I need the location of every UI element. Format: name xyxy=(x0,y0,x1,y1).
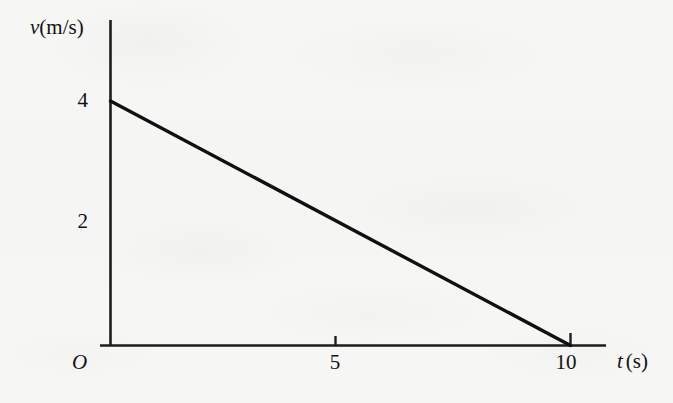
x-axis-variable: t xyxy=(617,349,623,373)
x-tick-label-5: 5 xyxy=(323,352,347,373)
x-axis-unit: (s) xyxy=(623,349,648,373)
y-axis-variable: v xyxy=(30,15,39,39)
x-axis-label: t(s) xyxy=(617,351,648,372)
velocity-time-graph-figure: v(m/s) t(s) O 4 2 5 10 xyxy=(0,0,673,403)
x-tick-label-10: 10 xyxy=(548,352,584,373)
y-axis-label: v(m/s) xyxy=(30,17,84,38)
plot-canvas xyxy=(0,0,673,403)
y-axis-unit: (m/s) xyxy=(39,15,83,39)
data-line-velocity xyxy=(111,101,571,346)
y-tick-label-2: 2 xyxy=(62,211,88,232)
y-tick-label-4: 4 xyxy=(62,90,88,111)
origin-label: O xyxy=(72,352,87,373)
